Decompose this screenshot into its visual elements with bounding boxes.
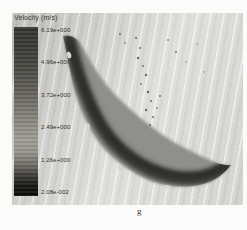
figure-caption: g <box>137 206 157 216</box>
contour-plot: Velocity (m/s) 6.19e+000 4.96e+000 3.72e… <box>12 13 243 205</box>
velocity-field <box>12 13 243 205</box>
blade-contour-shape <box>63 36 231 187</box>
figure-page: Velocity (m/s) 6.19e+000 4.96e+000 3.72e… <box>0 0 247 230</box>
